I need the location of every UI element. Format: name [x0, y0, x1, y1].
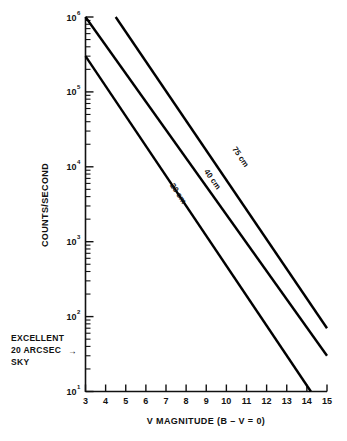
- y-tick-label: 101: [66, 384, 81, 397]
- svg-text:10: 10: [66, 387, 76, 397]
- x-tick-label: 7: [163, 396, 168, 406]
- x-axis-ticks: [86, 385, 328, 392]
- y-tick-label: 103: [66, 234, 81, 247]
- x-tick-label: 9: [204, 396, 209, 406]
- figure-container: 101102103104105106 3456789101112131415 7…: [0, 0, 347, 441]
- y-tick-label: 102: [66, 309, 81, 322]
- chart-svg: 101102103104105106 3456789101112131415 7…: [0, 0, 347, 441]
- curve-75-cm: [116, 17, 327, 328]
- svg-text:10: 10: [66, 87, 76, 97]
- annotation-line-3: SKY: [11, 357, 29, 367]
- y-tick-label: 106: [66, 10, 81, 23]
- curve-20-cm: [86, 56, 311, 391]
- svg-text:3: 3: [77, 234, 81, 240]
- svg-text:4: 4: [77, 159, 81, 165]
- x-tick-label: 14: [302, 396, 312, 406]
- svg-text:2: 2: [77, 309, 81, 315]
- x-axis-tick-labels: 3456789101112131415: [83, 396, 332, 406]
- annotation-line-2: 20 ARCSEC: [11, 345, 61, 355]
- x-tick-label: 4: [103, 396, 108, 406]
- svg-text:5: 5: [77, 84, 81, 90]
- curve-label-20-cm: 20 cm: [168, 182, 188, 206]
- x-axis-title: V MAGNITUDE (B – V = 0): [147, 416, 265, 426]
- svg-text:10: 10: [66, 237, 76, 247]
- x-tick-label: 10: [221, 396, 231, 406]
- y-tick-label: 104: [66, 159, 81, 172]
- annotation-arrow-icon: →: [68, 346, 77, 356]
- x-tick-label: 15: [322, 396, 332, 406]
- y-axis-ticks: [86, 17, 94, 392]
- x-tick-label: 13: [282, 396, 292, 406]
- annotation-line-1: EXCELLENT: [11, 333, 65, 343]
- x-tick-label: 6: [143, 396, 148, 406]
- svg-text:6: 6: [77, 10, 81, 16]
- svg-text:10: 10: [66, 13, 76, 23]
- curve-40-cm: [86, 17, 328, 356]
- y-axis-tick-labels: 101102103104105106: [66, 10, 81, 398]
- y-tick-label: 105: [66, 84, 81, 97]
- curve-label-75-cm: 75 cm: [230, 145, 250, 169]
- axis-lines: [86, 17, 328, 392]
- svg-text:10: 10: [66, 312, 76, 322]
- x-tick-label: 5: [123, 396, 128, 406]
- sky-brightness-annotation: EXCELLENT 20 ARCSEC SKY →: [11, 333, 77, 367]
- y-axis-title: COUNTS/SECOND: [40, 163, 50, 247]
- svg-text:10: 10: [66, 162, 76, 172]
- x-tick-label: 12: [262, 396, 272, 406]
- svg-text:1: 1: [77, 384, 81, 390]
- data-curves: [86, 17, 328, 392]
- x-tick-label: 3: [83, 396, 88, 406]
- x-tick-label: 8: [184, 396, 189, 406]
- x-tick-label: 11: [242, 396, 252, 406]
